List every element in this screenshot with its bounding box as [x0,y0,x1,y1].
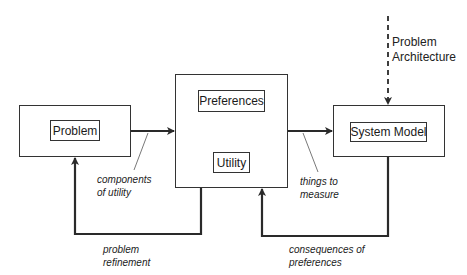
preferences-box: Preferences [198,90,265,112]
problem-architecture-label: Problem Architecture [392,35,456,65]
utility-box: Utility [213,152,250,173]
preferences-label: Preferences [199,94,264,108]
things-to-measure-label: things to measure [300,175,339,201]
problem-refinement-label: problem refinement [103,243,150,269]
system-model-box: System Model [350,122,427,142]
system-model-label: System Model [350,125,426,139]
problem-label: Problem [53,124,98,138]
components-of-utility-label: components of utility [97,173,151,199]
leader-things [303,133,318,172]
utility-label: Utility [217,156,246,170]
leader-components [134,133,148,170]
consequences-of-preferences-label: consequences of preferences [289,243,365,269]
problem-box: Problem [50,120,100,141]
